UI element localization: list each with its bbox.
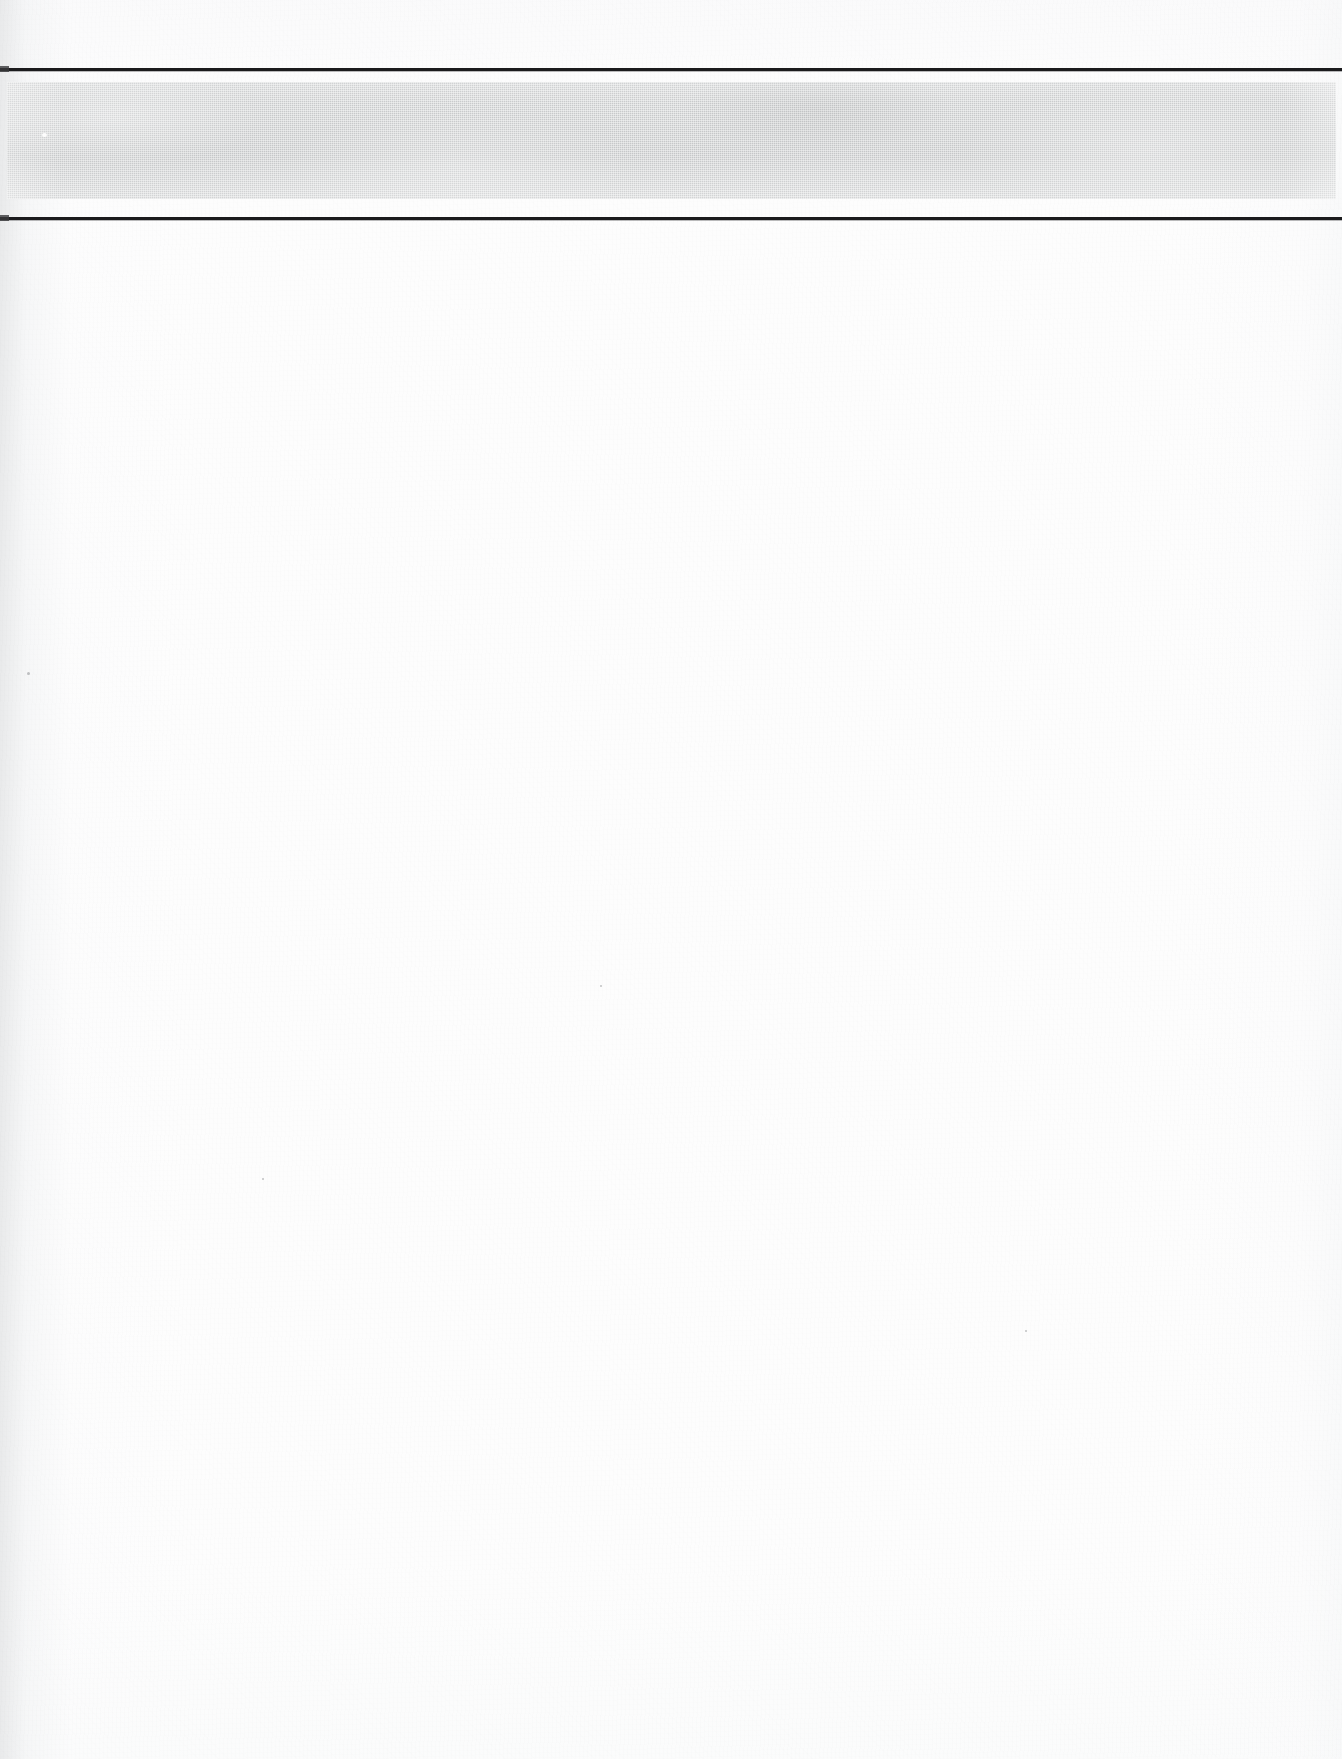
header-rule-bottom-gutter-mark [0,215,9,221]
header-rule-top-gutter-mark [0,66,9,72]
header-rule-bottom [0,217,1342,220]
scan-speck [262,1178,264,1180]
page-body-area [0,222,1342,1759]
header-tint-band [7,82,1336,199]
scanned-page [0,0,1342,1759]
scan-speck [1025,1330,1027,1332]
scan-speck [600,985,602,987]
scan-speck [27,672,30,675]
header-rule-top [0,68,1342,71]
